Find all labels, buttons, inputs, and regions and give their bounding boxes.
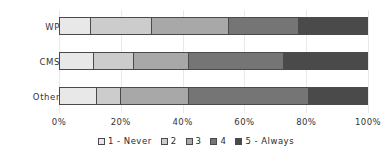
x-axis-tick-label: 40% [173, 117, 193, 127]
bar-segment[interactable] [94, 53, 134, 69]
legend-swatch-icon [161, 138, 168, 145]
legend-item[interactable]: 4 [210, 136, 226, 146]
bar-segment[interactable] [189, 88, 309, 104]
bar-segment[interactable] [91, 18, 152, 34]
bar-segment[interactable] [309, 88, 367, 104]
table-row[interactable] [59, 17, 368, 35]
legend-item[interactable]: 5 - Always [235, 136, 294, 146]
legend-item[interactable]: 2 [161, 136, 177, 146]
legend-swatch-icon [210, 138, 217, 145]
legend-swatch-icon [98, 138, 105, 145]
x-axis-tick-label: 80% [296, 117, 316, 127]
legend-swatch-icon [186, 138, 193, 145]
bar-segment[interactable] [121, 88, 189, 104]
y-axis-label-cms: CMS [0, 57, 60, 67]
bar-segment[interactable] [97, 88, 122, 104]
bar-segment[interactable] [189, 53, 284, 69]
y-axis-label-other: Other [0, 92, 60, 102]
gridline [368, 10, 369, 113]
legend-item-label: 1 - Never [108, 136, 152, 146]
legend: 1 - Never2345 - Always [0, 136, 392, 146]
bar-segment[interactable] [60, 53, 94, 69]
bar-segment[interactable] [134, 53, 189, 69]
bar-segment[interactable] [299, 18, 367, 34]
bar-segment[interactable] [60, 18, 91, 34]
y-axis-label-wp: WP [0, 22, 60, 32]
x-axis-tick-label: 60% [234, 117, 254, 127]
bar-segment[interactable] [60, 88, 97, 104]
x-axis-tick-label: 0% [52, 117, 66, 127]
legend-item[interactable]: 3 [186, 136, 202, 146]
stacked-bar-chart: WP CMS Other 0%20%40%60%80%100% 1 - Neve… [0, 0, 392, 157]
table-row[interactable] [59, 52, 368, 70]
legend-item-label: 4 [220, 136, 226, 146]
legend-item[interactable]: 1 - Never [98, 136, 152, 146]
legend-item-label: 5 - Always [245, 136, 294, 146]
bar-segment[interactable] [229, 18, 300, 34]
table-row[interactable] [59, 87, 368, 105]
bar-segment[interactable] [284, 53, 367, 69]
bar-segment[interactable] [152, 18, 229, 34]
x-axis-tick-label: 100% [355, 117, 381, 127]
legend-swatch-icon [235, 138, 242, 145]
legend-item-label: 2 [171, 136, 177, 146]
legend-item-label: 3 [196, 136, 202, 146]
plot-area [59, 10, 368, 113]
x-axis-tick-label: 20% [111, 117, 131, 127]
